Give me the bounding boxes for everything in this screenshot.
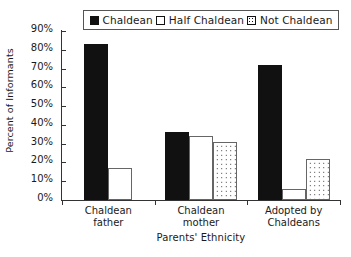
plot-area — [62, 31, 340, 200]
empty-square-icon — [156, 16, 165, 25]
y-axis-tick-label: 30% — [31, 137, 53, 147]
x-axis-tick-label: Adopted byChaldeans — [247, 205, 340, 229]
bar-group — [155, 31, 248, 200]
bar-not-chaldean — [213, 142, 237, 200]
dotted-square-icon — [247, 16, 256, 25]
chart-legend: Chaldean Half Chaldean Not Chaldean — [83, 10, 339, 30]
legend-label-not-chaldean: Not Chaldean — [260, 15, 333, 26]
legend-item-chaldean: Chaldean — [90, 15, 153, 26]
bar-not-chaldean — [306, 159, 330, 200]
bar-chart-figure: Chaldean Half Chaldean Not Chaldean Perc… — [0, 0, 351, 257]
y-axis-tick-label: 60% — [31, 80, 53, 90]
legend-item-not-chaldean: Not Chaldean — [247, 15, 333, 26]
bar-group — [62, 31, 155, 200]
x-axis-tick-mark — [62, 200, 63, 205]
legend-label-chaldean: Chaldean — [103, 15, 153, 26]
bar-half-chaldean — [189, 136, 213, 200]
y-axis-tick-label: 0% — [37, 193, 53, 203]
legend-item-half-chaldean: Half Chaldean — [156, 15, 244, 26]
bar-group — [247, 31, 340, 200]
y-axis-tick-label: 40% — [31, 118, 53, 128]
x-axis-tick-mark — [155, 200, 156, 205]
bar-chaldean — [165, 132, 189, 200]
y-axis-tick-label: 50% — [31, 99, 53, 109]
x-axis-line — [61, 200, 341, 201]
x-axis-title: Parents' Ethnicity — [62, 232, 340, 243]
bar-half-chaldean — [108, 168, 132, 200]
y-axis-tick-label: 70% — [31, 62, 53, 72]
solid-square-icon — [90, 16, 99, 25]
y-axis-ticks: 0%10%20%30%40%50%60%70%80%90% — [0, 31, 61, 200]
x-axis-tick-mark — [340, 200, 341, 205]
y-axis-tick-label: 10% — [31, 174, 53, 184]
bar-chaldean — [84, 44, 108, 200]
y-axis-tick-label: 80% — [31, 43, 53, 53]
y-axis-tick-label: 90% — [31, 24, 53, 34]
bar-chaldean — [258, 65, 282, 200]
x-axis-tick-label: Chaldeanfather — [62, 205, 155, 229]
bar-half-chaldean — [282, 189, 306, 200]
x-axis-tick-mark — [247, 200, 248, 205]
legend-label-half-chaldean: Half Chaldean — [169, 15, 244, 26]
x-axis-tick-label: Chaldeanmother — [155, 205, 248, 229]
y-axis-tick-label: 20% — [31, 155, 53, 165]
x-axis-tick-labels: ChaldeanfatherChaldeanmotherAdopted byCh… — [62, 205, 340, 235]
